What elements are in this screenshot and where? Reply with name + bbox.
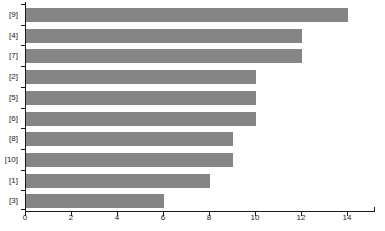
y-axis-label: [3] [0, 197, 18, 205]
x-axis-tick-label: 0 [23, 214, 27, 222]
y-axis-tick [21, 108, 25, 109]
y-axis-label: [7] [0, 52, 18, 60]
x-axis-tick-label: 2 [69, 214, 73, 222]
y-axis-label: [9] [0, 11, 18, 19]
bar-7 [26, 49, 302, 63]
x-axis-tick-label: 10 [251, 214, 260, 222]
y-axis-label: [5] [0, 94, 18, 102]
y-axis-tick [21, 4, 25, 5]
y-axis-label: [8] [0, 135, 18, 143]
x-axis-tick-label: 14 [343, 214, 352, 222]
x-axis-tick-label: 6 [161, 214, 165, 222]
y-axis-label: [4] [0, 32, 18, 40]
y-axis-label: [2] [0, 73, 18, 81]
y-axis-tick [21, 87, 25, 88]
bar-8 [26, 132, 233, 146]
bar-5 [26, 91, 256, 105]
y-axis-tick [21, 128, 25, 129]
bar-9 [26, 8, 348, 22]
bar-6 [26, 112, 256, 126]
y-axis-label: [1] [0, 177, 18, 185]
y-axis-tick [21, 209, 25, 210]
x-axis-end-tick [374, 207, 375, 211]
y-axis-tick [21, 149, 25, 150]
y-axis-tick [21, 45, 25, 46]
x-axis-tick-label: 4 [115, 214, 119, 222]
bar-2 [26, 70, 256, 84]
y-axis-tick [21, 170, 25, 171]
x-axis-tick-label: 12 [297, 214, 306, 222]
bar-10 [26, 153, 233, 167]
bar-3 [26, 194, 164, 208]
y-axis-label: [6] [0, 115, 18, 123]
bar-chart: 02468101214 [9][4][7][2][5][6][8][10][1]… [0, 0, 385, 231]
y-axis-tick [21, 66, 25, 67]
y-axis-tick [21, 25, 25, 26]
y-axis-label: [10] [0, 156, 18, 164]
x-axis-tick-label: 8 [207, 214, 211, 222]
bar-4 [26, 29, 302, 43]
bar-1 [26, 174, 210, 188]
x-axis-line [25, 211, 375, 212]
y-axis-tick [21, 190, 25, 191]
